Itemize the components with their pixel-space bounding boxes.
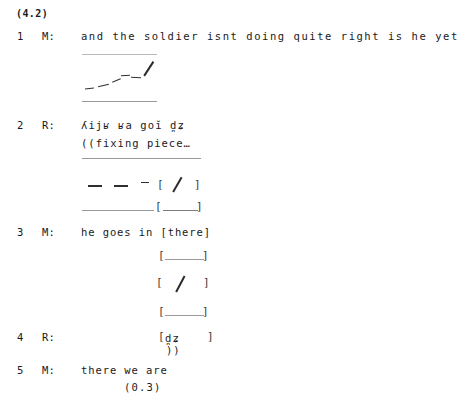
bracket-open-3a: [ [158, 249, 165, 262]
extract-identifier: (4.2) [16, 8, 48, 19]
pitch-staff-top-1 [82, 54, 157, 55]
turn-number-3: 3 [17, 226, 24, 238]
turn-speaker-3: M: [42, 226, 55, 238]
comment-trailing-dots-4 [82, 352, 166, 354]
turn-speaker-1: M: [42, 30, 55, 42]
turn-number-4: 4 [17, 331, 24, 343]
bracket-open-3b: [ [156, 276, 163, 289]
turn-utterance-3: he goes in [there] [81, 226, 211, 238]
bracket-open-4: [ [158, 330, 165, 343]
pitch-stroke-1-b [98, 84, 109, 88]
pitch-stroke-1-e [131, 77, 141, 79]
bracket-close-3c: ] [202, 305, 209, 318]
bracket-open-2: [ [157, 178, 164, 191]
bracket-open-3c: [ [158, 305, 165, 318]
bracket-open-2b: [ [155, 200, 162, 213]
pitch-stroke-2-rise [172, 177, 182, 193]
pitch-stroke-1-rise [143, 61, 154, 76]
bracket-rule-3a [165, 259, 204, 260]
bracket-close-3a: ] [202, 249, 209, 262]
pitch-stroke-1-c [112, 78, 121, 83]
pitch-stroke-1-d [121, 75, 130, 77]
turn-comment-4: )) [166, 344, 181, 356]
turn-number-5: 5 [17, 364, 24, 376]
pitch-staff-top-2 [82, 158, 201, 159]
turn-speaker-4: R: [42, 331, 55, 343]
bracket-close-4: ] [207, 330, 214, 343]
bracket-close-2: ] [194, 178, 201, 191]
bracket-close-3b: ] [203, 276, 210, 289]
turn-comment-2: ((fixing piece… [81, 137, 191, 149]
turn-speaker-2: R: [42, 119, 55, 131]
turn-ipa-4: d̪ʑ [165, 332, 180, 344]
pitch-staff-bottom-1 [82, 101, 157, 102]
turn-utterance-5: there we are [81, 364, 168, 376]
bracket-rule-3c [165, 315, 204, 316]
pitch-stroke-3-rise [175, 276, 185, 293]
turn-number-1: 1 [17, 30, 24, 42]
turn-speaker-5: M: [42, 364, 55, 376]
bracket-rule-2b [163, 210, 198, 211]
pitch-stroke-2-c [141, 182, 149, 183]
bracket-close-2b: ] [196, 200, 203, 213]
turn-ipa-2: ʎijʁ ʁa goĭ d̪ʑ [81, 119, 185, 131]
pitch-stroke-1-a [85, 88, 94, 90]
pitch-stroke-2-a [88, 185, 102, 187]
turn-utterance-1: and the soldier isnt doing quite right i… [81, 30, 459, 42]
pause-marker-5: (0.3) [124, 381, 162, 393]
pitch-stroke-2-b [114, 185, 128, 187]
turn-number-2: 2 [17, 119, 24, 131]
pitch-staff-bottom-2 [82, 210, 154, 211]
